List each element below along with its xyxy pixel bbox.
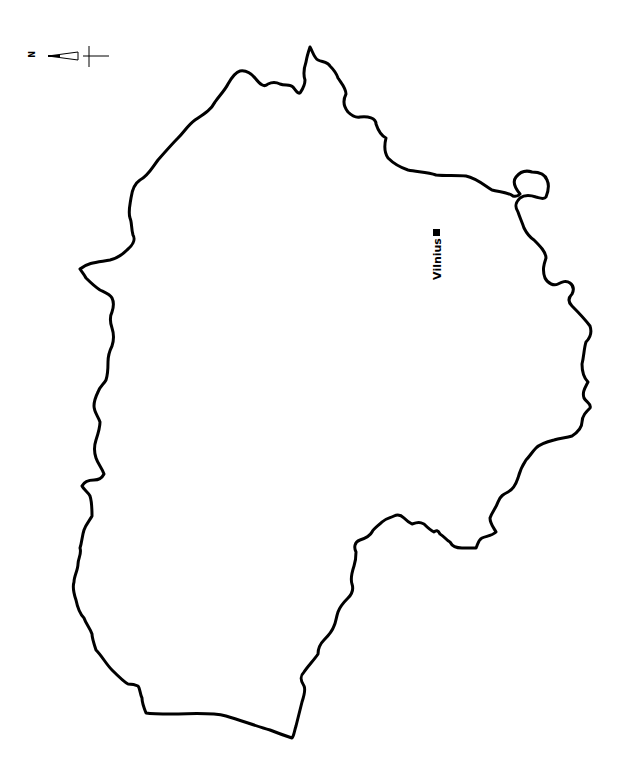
north-arrow-icon	[48, 46, 109, 67]
city-label-vilnius: Vilnius	[431, 238, 444, 280]
region-boundary	[73, 47, 591, 738]
region-map	[0, 0, 630, 770]
north-label: N	[28, 51, 37, 58]
square-marker-icon	[433, 229, 440, 236]
